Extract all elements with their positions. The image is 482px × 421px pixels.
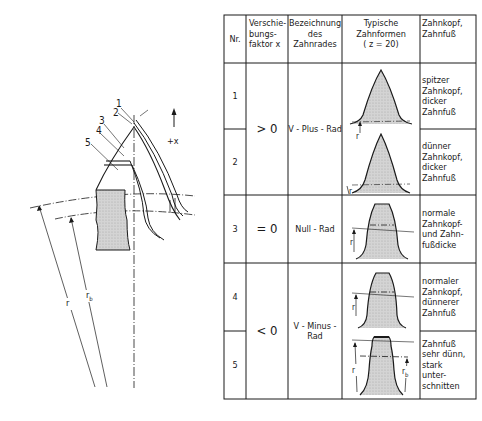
tooth-shape-1 (350, 70, 412, 133)
radius-label: r (66, 298, 69, 309)
tooth5-rb-label: rb (402, 366, 408, 380)
name-null-rad: Null - Rad (288, 195, 342, 263)
base-radius-label: rb (86, 290, 93, 304)
description-row-3: normaleZahnkopf-und Zahn-fußdicke (420, 195, 476, 263)
description-row-4: normalerZahnkopf,dünnererZahnfuß (420, 263, 476, 331)
row-nr-4: 4 (224, 263, 246, 331)
header-tip-root: Zahnkopf,Zahnfuß (422, 18, 476, 63)
name-v-minus-rad: V - Minus -Rad (288, 263, 342, 399)
profile-label-5: 5 (85, 137, 91, 148)
tooth3-r-label: r (350, 237, 353, 248)
profile-label-4: 4 (96, 125, 102, 136)
description-row-1: spitzerZahnkopf,dickerZahnfuß (420, 63, 476, 129)
description-row-2: dünnerZahnkopf,dickerZahnfuß (420, 129, 476, 195)
direction-plus-x-label: +x (167, 136, 179, 147)
row-nr-1: 1 (224, 63, 246, 129)
description-row-5: Zahnfußsehr dünn,starkunter-schnitten (420, 331, 476, 399)
tooth1-r-label: r (356, 131, 359, 142)
tooth-shape-2 (347, 134, 410, 194)
header-shift-factor: Verschie-bungs-faktor x (249, 18, 289, 63)
header-tooth-shapes: TypischeZahnformen( z = 20) (342, 18, 420, 63)
tooth-shape-3 (352, 204, 414, 259)
tooth2-r-label: r (349, 186, 352, 197)
name-v-plus-rad: V - Plus - Rad (288, 63, 342, 195)
row-nr-5: 5 (224, 331, 246, 399)
row-nr-2: 2 (224, 129, 246, 195)
row-nr-3: 3 (224, 195, 246, 263)
factor-positive: > 0 (246, 63, 288, 195)
tooth4-r-label: r (352, 302, 355, 313)
factor-negative: < 0 (246, 263, 288, 399)
header-nr: Nr. (224, 15, 246, 63)
tooth-shape-4 (352, 273, 414, 328)
factor-zero: = 0 (246, 195, 288, 263)
tooth5-r-label: r (352, 365, 355, 376)
gear-profile-shift-figure: 1 2 3 4 5 +x r rb Nr. Verschie-bungs-fak… (0, 0, 482, 421)
header-gear-name: BezeichnungdesZahnrades (288, 18, 342, 63)
profile-label-2: 2 (113, 107, 119, 118)
